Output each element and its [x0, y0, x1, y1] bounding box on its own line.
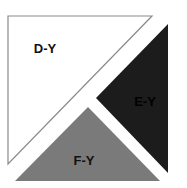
label-f-y: F-Y: [74, 153, 95, 168]
triangle-partition-diagram: D-Y E-Y F-Y: [0, 0, 187, 188]
label-d-y: D-Y: [34, 41, 57, 56]
label-e-y: E-Y: [134, 94, 156, 109]
